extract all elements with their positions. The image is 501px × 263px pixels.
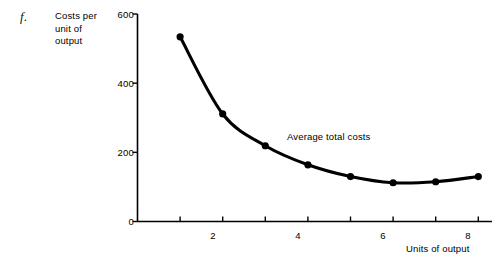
average-total-cost-curve — [180, 37, 478, 183]
data-point-marker — [432, 178, 439, 185]
data-point-markers — [177, 33, 482, 186]
data-point-marker — [304, 161, 311, 168]
axes — [137, 14, 492, 222]
data-point-marker — [177, 33, 184, 40]
data-point-marker — [219, 110, 226, 117]
plot-area — [0, 0, 501, 263]
chart-figure: f. Costs per unit of output 600 400 200 … — [0, 0, 501, 263]
data-point-marker — [262, 142, 269, 149]
data-point-marker — [475, 173, 482, 180]
data-point-marker — [347, 173, 354, 180]
data-point-marker — [390, 179, 397, 186]
